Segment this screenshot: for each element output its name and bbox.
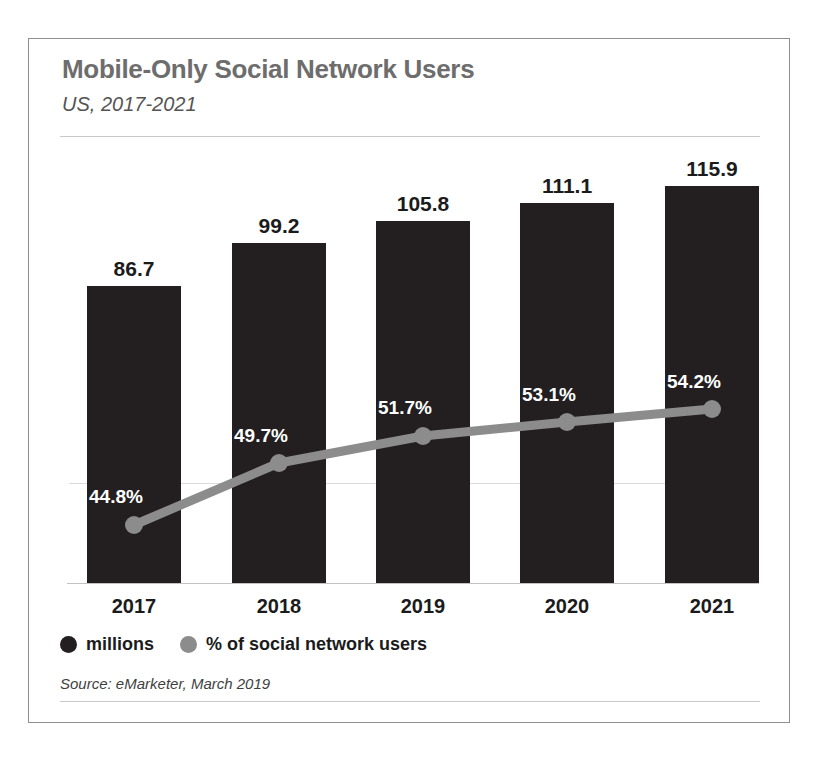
pct-value-label-2021: 54.2% [667,371,721,393]
chart-card: Mobile-Only Social Network Users US, 201… [28,38,790,723]
x-axis-label-2018: 2018 [232,595,326,618]
legend-item-1: millions [60,634,154,655]
line-marker-2021 [703,400,721,418]
chart-legend: millions% of social network users [60,634,427,655]
x-axis-label-2019: 2019 [376,595,470,618]
bar-value-label-2021: 115.9 [665,157,759,181]
footer-divider [60,701,760,702]
x-axis-label-2021: 2021 [665,595,759,618]
line-marker-2018 [270,454,288,472]
legend-label-2: % of social network users [206,634,427,655]
bar-value-label-2018: 99.2 [232,214,326,238]
line-path [134,409,712,525]
axis-baseline [67,583,759,584]
legend-item-2: % of social network users [180,634,427,655]
pct-value-label-2019: 51.7% [378,397,432,419]
pct-value-label-2017: 44.8% [89,486,143,508]
x-axis-label-2017: 2017 [87,595,181,618]
circle-icon [60,636,77,653]
legend-label-1: millions [86,634,154,655]
source-note: Source: eMarketer, March 2019 [60,675,270,692]
plot-area: 86.7201744.8%99.2201849.7%105.8201951.7%… [29,39,791,724]
circle-icon [180,636,197,653]
line-marker-2019 [414,427,432,445]
bar-value-label-2020: 111.1 [520,174,614,198]
bar-value-label-2017: 86.7 [87,257,181,281]
pct-value-label-2018: 49.7% [234,425,288,447]
pct-value-label-2020: 53.1% [522,384,576,406]
x-axis-label-2020: 2020 [520,595,614,618]
bar-value-label-2019: 105.8 [376,192,470,216]
line-marker-2017 [125,516,143,534]
line-marker-2020 [558,413,576,431]
